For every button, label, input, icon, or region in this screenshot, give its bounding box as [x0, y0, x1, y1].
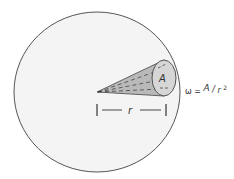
solid-angle-diagram: A r ω = A / r 2 [0, 0, 234, 179]
area-label: A [158, 73, 166, 84]
formula: ω = A / r 2 [185, 83, 227, 96]
